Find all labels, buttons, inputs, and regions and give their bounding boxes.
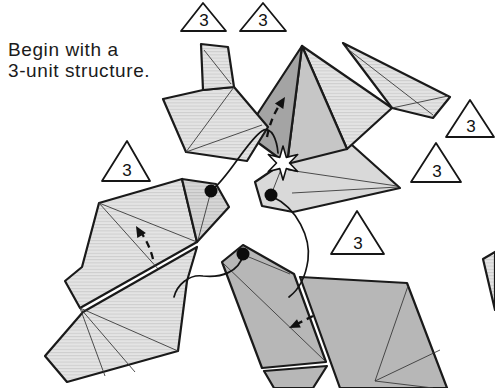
unit-count-marker: 3 <box>240 3 286 31</box>
corner-dot-icon <box>265 189 278 202</box>
unit-count-marker: 3 <box>411 143 461 182</box>
origami-unit-top-left <box>163 87 268 161</box>
unit-count-label: 3 <box>353 234 362 253</box>
unit-count-label: 3 <box>199 11 208 30</box>
origami-diagram-page: 3 3 3 3 3 3 Begin with a 3-unit structur… <box>0 0 495 388</box>
unit-count-marker: 3 <box>181 3 226 31</box>
unit-count-marker: 3 <box>102 141 150 181</box>
paper-tip-right-edge <box>483 252 495 310</box>
instruction-caption: Begin with a 3-unit structure. <box>8 40 150 82</box>
corner-dot-icon <box>237 248 250 261</box>
unit-count-marker: 3 <box>446 100 494 137</box>
unit-count-label: 3 <box>466 117 475 136</box>
unit-count-marker: 3 <box>331 211 384 254</box>
caption-line-2: 3-unit structure. <box>8 61 150 82</box>
unit-count-label: 3 <box>122 161 131 180</box>
unit-count-label: 3 <box>258 11 267 30</box>
corner-dot-icon <box>205 185 218 198</box>
origami-unit-bottom-center-flap <box>264 366 327 388</box>
unit-count-label: 3 <box>432 162 441 181</box>
caption-line-1: Begin with a <box>8 40 150 61</box>
